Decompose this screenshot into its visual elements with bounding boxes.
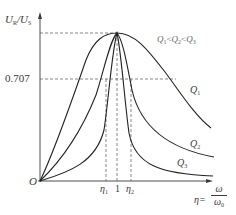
x-axis-arrow-icon — [206, 179, 213, 183]
q3-sub: 3 — [184, 163, 187, 169]
xlabel-den-sub: 0 — [221, 202, 224, 208]
x-axis-label-fraction: ω ω0 — [211, 184, 227, 208]
eta1-sub: 1 — [105, 189, 108, 195]
x-tick-eta1: η1 — [100, 184, 108, 195]
xlabel-numerator: ω — [215, 184, 222, 194]
curve-label-q1: Q1 — [190, 85, 200, 96]
q-order-annotation: Q1<Q2<Q3 — [157, 35, 196, 45]
curve-label-q2: Q2 — [190, 139, 200, 150]
origin-label: O — [29, 176, 37, 187]
x-tick-eta2: η2 — [126, 184, 134, 195]
xlabel-den-omega: ω — [214, 196, 221, 207]
curve-q2 — [40, 33, 214, 181]
y-tick-0707: 0.707 — [5, 73, 30, 84]
xlabel-denominator: ω0 — [214, 197, 224, 208]
x-axis-label-eta: η= — [194, 195, 206, 205]
q2-sub: 2 — [197, 144, 200, 150]
curve-label-q3: Q3 — [177, 158, 187, 169]
ylabel-sep: /U — [17, 13, 28, 25]
eta2-sub: 2 — [131, 189, 134, 195]
qo-q3-sub: 3 — [193, 39, 196, 45]
curves — [40, 33, 214, 181]
q1-sub: 1 — [197, 90, 200, 96]
x-tick-one: 1 — [115, 184, 120, 194]
y-axis-label: UR/US — [5, 14, 31, 26]
ylabel-u: U — [5, 13, 13, 25]
y-axis-arrow-icon — [38, 12, 42, 19]
ylabel-sub-s: S — [28, 20, 31, 26]
